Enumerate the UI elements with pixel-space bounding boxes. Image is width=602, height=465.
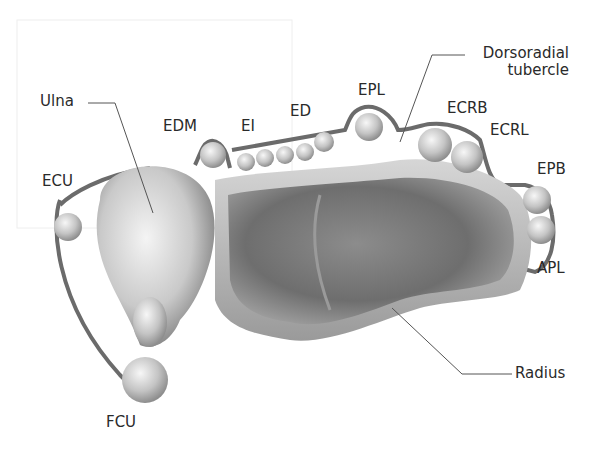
label-dorsoradial-line2: tubercle — [470, 62, 569, 79]
label-dorsoradial-line1: Dorsoradial — [470, 45, 569, 62]
label-fcu: FCU — [106, 414, 136, 431]
tendon-fcu — [122, 357, 168, 403]
label-apl: APL — [537, 260, 565, 277]
tendon-epl — [355, 113, 383, 141]
tendon-ecrl — [451, 141, 483, 173]
tendon-edm — [200, 142, 226, 168]
diagram-canvas: Ulna ECU EDM EI ED EPL Dorsoradial tuber… — [0, 0, 602, 465]
radius-medulla — [228, 178, 514, 324]
label-ecrb: ECRB — [447, 100, 488, 117]
label-ulna: Ulna — [40, 93, 74, 110]
label-ecrl: ECRL — [490, 122, 529, 139]
label-radius: Radius — [515, 365, 565, 382]
label-ei: EI — [241, 118, 255, 135]
label-edm: EDM — [163, 118, 197, 135]
label-ecu: ECU — [42, 173, 73, 190]
tendon-epb — [523, 186, 551, 214]
label-epb: EPB — [537, 161, 566, 178]
tendon-apl — [527, 216, 555, 244]
leader-radius — [392, 308, 512, 374]
label-dorsoradial-tubercle: Dorsoradial tubercle — [470, 45, 569, 80]
tendon-ecrb — [418, 128, 452, 162]
tendon-ei — [237, 153, 255, 171]
label-epl: EPL — [358, 82, 385, 99]
tendon-ecu — [54, 213, 82, 241]
tendon-ed — [276, 146, 294, 164]
label-ed: ED — [290, 103, 311, 120]
